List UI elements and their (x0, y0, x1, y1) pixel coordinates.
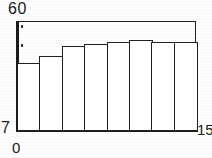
y-axis-min-label: 7 (1, 120, 10, 136)
bar-chart-figure: 60 7 0 15 (0, 0, 212, 158)
bar (129, 40, 153, 131)
bar (174, 42, 198, 131)
bar (62, 46, 86, 131)
bar-series (17, 21, 196, 131)
y-axis-max-label: 60 (8, 1, 27, 17)
bar (17, 63, 41, 131)
x-axis-max-label: 15 (197, 122, 212, 137)
bar (107, 42, 131, 131)
bar (84, 44, 108, 131)
x-axis-min-label: 0 (12, 140, 20, 155)
bar (39, 56, 63, 131)
bar (151, 42, 175, 131)
